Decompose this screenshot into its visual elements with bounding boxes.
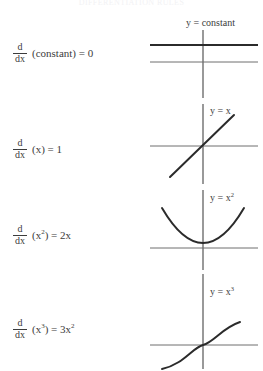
- derivative-operator: d dx: [13, 224, 27, 246]
- graph-label-constant: y = constant: [186, 17, 235, 28]
- graph-label-prefix: y = x: [210, 192, 231, 203]
- operator-numerator: d: [16, 42, 25, 53]
- graph-cubic: y = x3: [148, 272, 263, 371]
- formula-result-exponent: 2: [71, 322, 75, 330]
- operator-denominator: dx: [13, 54, 27, 65]
- derivative-operator: d dx: [13, 138, 27, 160]
- graph-label-exponent: 2: [231, 191, 234, 198]
- rule-row-quadratic: d dx (x2) = 2x y = x2: [0, 186, 263, 272]
- operator-numerator: d: [16, 224, 25, 235]
- graph-svg-quadratic: [148, 186, 263, 272]
- graph-label-linear: y = x: [210, 105, 231, 116]
- graph-label-exponent: 3: [231, 285, 234, 292]
- derivative-operator: d dx: [13, 42, 27, 64]
- operator-denominator: dx: [13, 330, 27, 341]
- formula-body-suffix: ) = 3x: [45, 323, 71, 335]
- operator-denominator: dx: [13, 236, 27, 247]
- formula-linear: d dx (x) = 1: [13, 138, 62, 160]
- graph-quadratic: y = x2: [148, 186, 263, 272]
- graph-constant: y = constant: [148, 14, 263, 100]
- graph-label-cubic: y = x3: [210, 286, 234, 297]
- formula-quadratic: d dx (x2) = 2x: [13, 224, 71, 246]
- graph-svg-linear: [148, 100, 263, 186]
- formula-body-prefix: (x: [32, 323, 41, 335]
- graph-label-quadratic: y = x2: [210, 192, 234, 203]
- formula-body: (x) = 1: [32, 143, 62, 155]
- formula-constant: d dx (constant) = 0: [13, 42, 93, 64]
- graph-label-prefix: y = x: [210, 286, 231, 297]
- formula-cubic: d dx (x3) = 3x2: [13, 318, 75, 340]
- formula-body: (x3) = 3x2: [32, 323, 75, 335]
- rule-row-linear: d dx (x) = 1 y = x: [0, 100, 263, 186]
- differentiation-rules-figure: DIFFERENTIATION RULES d dx (constant) = …: [0, 0, 263, 371]
- operator-denominator: dx: [13, 150, 27, 161]
- formula-body: (x2) = 2x: [32, 229, 71, 241]
- operator-numerator: d: [16, 318, 25, 329]
- graph-svg-cubic: [148, 272, 263, 371]
- page-heading: DIFFERENTIATION RULES: [0, 0, 263, 5]
- formula-body-prefix: (x: [32, 229, 41, 241]
- graph-linear: y = x: [148, 100, 263, 186]
- operator-numerator: d: [16, 138, 25, 149]
- formula-body: (constant) = 0: [32, 47, 93, 59]
- rule-row-cubic: d dx (x3) = 3x2 y = x3: [0, 272, 263, 371]
- rule-row-constant: d dx (constant) = 0 y = constant: [0, 12, 263, 100]
- formula-body-suffix: ) = 2x: [45, 229, 71, 241]
- derivative-operator: d dx: [13, 318, 27, 340]
